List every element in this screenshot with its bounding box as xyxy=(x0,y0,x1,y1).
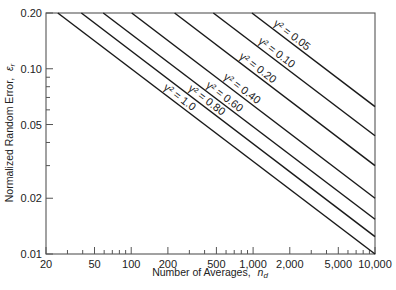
plot-border xyxy=(46,13,375,254)
y-tick-label: 0.20 xyxy=(21,7,42,19)
y-axis-title-main: Normalized Random Error, xyxy=(3,78,15,202)
x-tick-label: 50 xyxy=(88,258,100,270)
plot-frame xyxy=(46,13,375,254)
y-tick-label: 0.10 xyxy=(21,63,42,75)
x-tick-label: 10,000 xyxy=(358,258,392,270)
x-tick-label: 2,000 xyxy=(276,258,304,270)
series-line xyxy=(132,13,375,198)
x-axis-title: Number of Averages, nd xyxy=(152,266,268,280)
x-axis-title-main: Number of Averages, xyxy=(152,266,250,278)
series-line xyxy=(103,13,375,219)
series-line xyxy=(81,13,375,237)
x-tick-label: 100 xyxy=(122,258,140,270)
x-axis-title-sub: d xyxy=(263,271,268,280)
y-axis-title-sub: r xyxy=(8,63,17,66)
y-tick-label: 0.01 xyxy=(21,248,42,260)
x-tick-label: 5,000 xyxy=(325,258,353,270)
series-line xyxy=(252,13,375,107)
chart: 20501002005001,0002,0005,00010,000 0.200… xyxy=(0,0,396,290)
series-lines xyxy=(58,13,375,254)
y-axis-title: Normalized Random Error, εr xyxy=(3,63,17,202)
y-tick-label: 0.02 xyxy=(21,192,42,204)
y-tick-label: 0.05 xyxy=(21,119,42,131)
y-axis: 0.200.100.050.020.01 xyxy=(21,7,53,260)
series-line xyxy=(58,13,375,254)
